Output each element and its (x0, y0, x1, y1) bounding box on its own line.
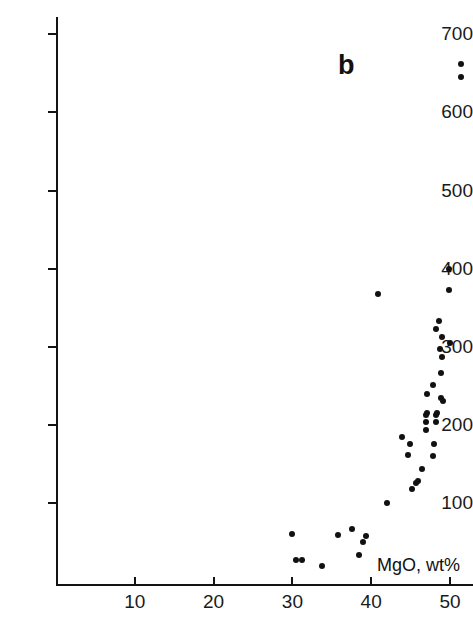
data-point (431, 441, 437, 447)
data-point (360, 539, 366, 545)
plot-data-area (0, 0, 473, 629)
data-point (447, 340, 453, 346)
data-point (430, 453, 436, 459)
data-point (439, 354, 445, 360)
data-point (440, 398, 446, 404)
panel-label-b: b (338, 52, 355, 79)
data-point (437, 346, 443, 352)
data-point (419, 466, 425, 472)
data-point (423, 427, 429, 433)
data-point (446, 287, 452, 293)
data-point (423, 419, 429, 425)
data-point (319, 563, 325, 569)
data-point (289, 531, 295, 537)
data-point (439, 334, 445, 340)
data-point (399, 434, 405, 440)
data-point (293, 557, 299, 563)
data-point (409, 486, 415, 492)
data-point (335, 532, 341, 538)
data-point (433, 326, 439, 332)
x-axis-title: MgO, wt% (377, 556, 460, 574)
data-point (438, 370, 444, 376)
data-point (405, 452, 411, 458)
data-point (433, 412, 439, 418)
data-point (458, 61, 464, 67)
data-point (430, 382, 436, 388)
data-point (299, 557, 305, 563)
data-point (349, 526, 355, 532)
data-point (423, 412, 429, 418)
data-point (436, 318, 442, 324)
data-point (375, 291, 381, 297)
scatter-plot-figure: 100200300400500600700 1020304050 b MgO, … (0, 0, 473, 629)
data-point (433, 419, 439, 425)
data-point (424, 391, 430, 397)
data-point (407, 441, 413, 447)
data-point (356, 552, 362, 558)
data-point (384, 500, 390, 506)
data-point (446, 266, 452, 272)
data-point (458, 74, 464, 80)
data-point (413, 480, 419, 486)
